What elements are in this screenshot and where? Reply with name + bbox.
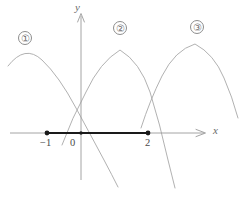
parabola-figure: y x −1 0 2 ① ② ③	[0, 0, 240, 216]
curve-3-path	[141, 44, 238, 128]
x-axis-label: x	[213, 125, 218, 136]
curve-2-path	[62, 50, 175, 188]
curve-label-3: ③	[190, 20, 204, 34]
interval-endpoint-right-dot	[146, 131, 151, 136]
curve-label-1: ①	[18, 31, 32, 45]
origin-dot	[79, 131, 82, 134]
curve-1-path	[8, 53, 118, 187]
interval-endpoint-left-dot	[45, 131, 50, 136]
curve-label-2: ②	[113, 21, 127, 35]
tick-label-zero: 0	[70, 138, 75, 149]
tick-label-two: 2	[145, 138, 150, 149]
y-axis-label: y	[75, 2, 80, 13]
tick-label-minus-one: −1	[40, 138, 51, 149]
